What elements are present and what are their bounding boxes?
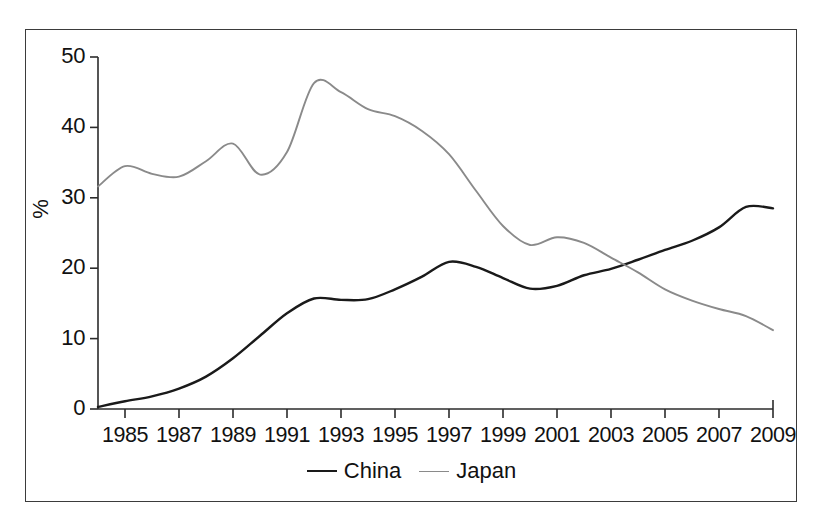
x-tick-label-2009: 2009	[743, 423, 803, 448]
y-tick-label-40: 40	[33, 113, 85, 139]
x-tick-label-1993: 1993	[311, 423, 371, 448]
x-tick-label-1997: 1997	[419, 423, 479, 448]
legend-item-japan[interactable]: Japan	[419, 458, 516, 484]
y-tick-label-20: 20	[33, 254, 85, 280]
x-tick-label-2001: 2001	[527, 423, 587, 448]
x-tick-label-1987: 1987	[149, 423, 209, 448]
x-tick-label-1991: 1991	[257, 423, 317, 448]
y-tick-label-50: 50	[33, 43, 85, 69]
y-tick-label-10: 10	[33, 325, 85, 351]
y-tick-label-30: 30	[33, 184, 85, 210]
legend-label-china: China	[344, 458, 401, 484]
legend-item-china[interactable]: China	[307, 458, 401, 484]
x-tick-label-2007: 2007	[689, 423, 749, 448]
x-tick-label-1995: 1995	[365, 423, 425, 448]
x-tick-label-1989: 1989	[203, 423, 263, 448]
legend-line-swatch-japan	[419, 471, 449, 472]
x-tick-label-2003: 2003	[581, 423, 641, 448]
legend-label-japan: Japan	[456, 458, 516, 484]
x-tick-label-1985: 1985	[95, 423, 155, 448]
legend-line-swatch-china	[307, 470, 337, 472]
x-tick-label-2005: 2005	[635, 423, 695, 448]
chart-legend: ChinaJapan	[0, 458, 823, 484]
y-tick-label-0: 0	[33, 395, 85, 421]
figure-container: % 01020304050 19851987198919911993199519…	[0, 0, 823, 528]
x-tick-label-1999: 1999	[473, 423, 533, 448]
